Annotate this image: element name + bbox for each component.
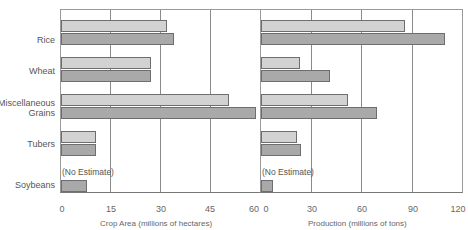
right-tick-0: 0 [263,204,268,214]
left-tick-30: 30 [156,204,166,214]
bar-tubers-prod-light [261,131,297,143]
bar-wheat-prod-dark [261,70,330,82]
category-label-soybeans: Soybeans [15,180,55,190]
category-label-tubers: Tubers [27,139,55,149]
bar-rice-area-light [61,20,167,32]
bar-soybeans-prod-dark [261,180,273,192]
category-label-misc-line2: Grains [28,108,55,118]
right-tick-60: 60 [357,204,367,214]
left-x-axis-label: Crop Area (millions of hectares) [100,219,212,228]
right-tick-30: 30 [307,204,317,214]
left-tick-45: 45 [205,204,215,214]
bar-misc-prod-light [261,94,348,106]
right-tick-90: 90 [408,204,418,214]
right-tick-120: 120 [450,204,465,214]
category-label-misc-line1: Miscellaneous [0,98,55,108]
bar-tubers-area-light [61,131,96,143]
left-tick-15: 15 [106,204,116,214]
bar-misc-area-dark [61,107,256,119]
category-label-rice: Rice [37,35,55,45]
left-tick-60: 60 [249,204,259,214]
bar-tubers-area-dark [61,144,96,156]
bar-wheat-area-light [61,57,151,69]
bar-wheat-prod-light [261,57,300,69]
category-label-wheat: Wheat [29,66,55,76]
left-tick-0: 0 [59,204,64,214]
right-x-axis-label: Production (millions of tons) [308,219,407,228]
bar-tubers-prod-dark [261,144,301,156]
no-estimate-note-prod: (No Estimate) [262,167,314,177]
bar-rice-prod-dark [261,33,445,45]
no-estimate-note-area: (No Estimate) [62,167,114,177]
bar-misc-prod-dark [261,107,377,119]
bar-rice-area-dark [61,33,174,45]
bar-rice-prod-light [261,20,405,32]
bar-soybeans-area-dark [61,180,87,192]
bar-misc-area-light [61,94,229,106]
bar-wheat-area-dark [61,70,151,82]
